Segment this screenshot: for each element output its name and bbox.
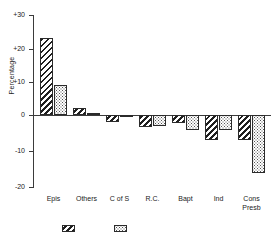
bar: [186, 115, 199, 130]
y-tick-label: 0: [1, 111, 25, 118]
legend-swatch-hatched: [62, 225, 75, 232]
y-tick-mark: [29, 82, 34, 83]
bar: [106, 115, 119, 122]
bar: [40, 38, 53, 115]
y-tick-label: -10: [1, 147, 25, 154]
bar: [73, 108, 86, 115]
y-tick-label: +20: [1, 45, 25, 52]
y-tick-mark: [29, 49, 34, 50]
bar: [139, 115, 152, 127]
bar: [205, 115, 218, 140]
y-tick-label: +30: [1, 11, 25, 18]
bar: [153, 115, 166, 126]
x-axis-category-label: Cons Presb: [230, 194, 273, 212]
y-tick-label: -20: [1, 183, 25, 190]
y-tick-mark: [29, 151, 34, 152]
bar: [238, 115, 251, 140]
y-tick-label: +10: [1, 78, 25, 85]
bar: [87, 113, 100, 115]
y-axis-label: Percentage: [8, 44, 15, 108]
bar: [54, 85, 67, 115]
x-axis-zero-line: [33, 115, 271, 116]
bar-chart: Percentage +30 +20 +10 0 -10 -20 EpisOth…: [0, 0, 275, 233]
bar: [120, 115, 133, 117]
bar: [219, 115, 232, 130]
bar: [252, 115, 265, 173]
y-tick-mark: [29, 15, 34, 16]
y-tick-mark: [29, 187, 34, 188]
legend-swatch-dotted: [114, 225, 127, 232]
y-tick-mark: [29, 115, 34, 116]
y-axis-line: [33, 15, 34, 188]
bar: [172, 115, 185, 123]
